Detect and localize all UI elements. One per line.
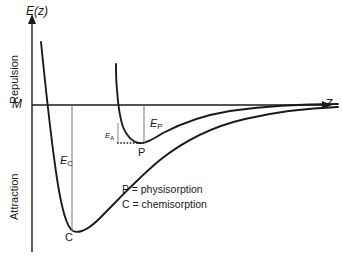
- physisorption-energy-subscript: P: [157, 122, 162, 131]
- y-axis: [28, 14, 36, 252]
- chemisorption-energy-subscript: C: [67, 159, 73, 168]
- x-axis-label: Z: [325, 98, 332, 110]
- legend-item-physisorption: P = physisorption: [122, 182, 207, 197]
- repulsion-region-label: Repulsion: [9, 55, 20, 104]
- activation-energy-subscript: A: [110, 135, 114, 141]
- y-axis-label: E(z): [26, 5, 48, 17]
- physisorption-curve: [116, 64, 338, 143]
- potential-energy-diagram: E(z) Z M Repulsion Attraction EC EP EA P…: [0, 0, 342, 260]
- chemisorption-energy-label: EC: [60, 155, 73, 166]
- physisorption-energy-label: EP: [150, 118, 163, 129]
- legend-item-chemisorption: C = chemisorption: [122, 197, 207, 212]
- physisorption-minimum-label: P: [138, 147, 145, 158]
- plot-canvas: [0, 0, 342, 260]
- legend: P = physisorption C = chemisorption: [122, 182, 207, 212]
- attraction-region-label: Attraction: [9, 174, 20, 220]
- chemisorption-minimum-label: C: [65, 232, 73, 243]
- activation-energy-label: EA: [105, 132, 114, 140]
